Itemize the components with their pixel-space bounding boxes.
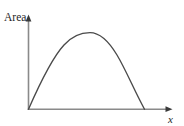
x-axis-arrow-icon — [166, 106, 173, 112]
x-axis-label: x — [167, 113, 173, 125]
y-axis-arrow-icon — [26, 15, 32, 22]
figure-container: Area x — [0, 0, 184, 126]
plot-canvas: Area x — [0, 0, 184, 126]
area-curve — [29, 33, 145, 110]
y-axis-label: Area — [4, 11, 26, 23]
